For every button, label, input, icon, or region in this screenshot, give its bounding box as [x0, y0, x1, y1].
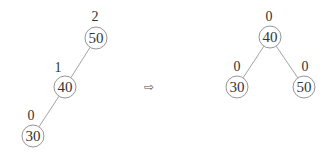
node-value: 40 — [263, 29, 278, 45]
balance-factor-label: 0 — [266, 9, 273, 24]
after-edge-40-50 — [276, 46, 298, 78]
balance-factor-label: 0 — [234, 59, 241, 74]
balance-factor-label: 0 — [302, 59, 309, 74]
tree-edges — [39, 46, 298, 127]
node-value: 50 — [89, 30, 104, 46]
before-node-30: 300 — [22, 108, 44, 147]
before-edge-50-40 — [71, 47, 90, 77]
after-node-30: 300 — [226, 59, 248, 98]
tree-nodes: 502401300400300500 — [22, 9, 315, 147]
before-node-50: 502 — [85, 9, 107, 49]
after-node-50: 500 — [293, 59, 315, 98]
before-node-40: 401 — [54, 60, 76, 98]
node-value: 50 — [297, 79, 312, 95]
node-value: 30 — [26, 128, 41, 144]
balance-factor-label: 0 — [28, 108, 35, 123]
transform-arrow-icon: ⇨ — [144, 80, 154, 94]
avl-rotation-diagram: 502401300400300500 ⇨ — [0, 0, 331, 157]
after-node-40: 400 — [259, 9, 281, 48]
before-edge-40-30 — [39, 96, 59, 127]
balance-factor-label: 1 — [55, 60, 62, 75]
node-value: 40 — [58, 79, 73, 95]
node-value: 30 — [230, 79, 245, 95]
after-edge-40-30 — [243, 46, 264, 78]
balance-factor-label: 2 — [92, 9, 99, 24]
